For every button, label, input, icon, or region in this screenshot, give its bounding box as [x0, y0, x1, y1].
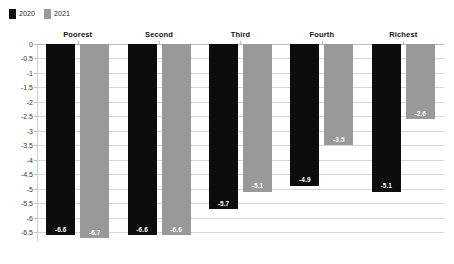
bar-group: Richest-5.1-2.6 [363, 44, 444, 241]
y-axis-tick-label: 0 [29, 41, 33, 48]
group-label: Third [200, 30, 281, 39]
bar[interactable]: -6.6 [46, 44, 75, 235]
legend-label: 2020 [19, 9, 35, 19]
group-label: Fourth [281, 30, 362, 39]
legend-swatch-icon [9, 9, 16, 19]
x-axis-tick-mark [322, 41, 323, 44]
legend-entry[interactable]: 2021 [44, 9, 70, 19]
y-axis-tick-label: -5.5 [21, 200, 33, 207]
bar-chart: 20202021 0-0.5-1-1.5-2-2.5-3-3.5-4-4.5-5… [0, 0, 454, 264]
bar-value-label: -5.7 [209, 201, 238, 208]
bar-value-label: -6.6 [162, 227, 191, 234]
bar[interactable]: -5.1 [372, 44, 401, 192]
x-axis-tick-mark [78, 41, 79, 44]
bar[interactable]: -4.9 [290, 44, 319, 186]
y-axis-tick-label: -0.5 [21, 55, 33, 62]
bar[interactable]: -5.1 [243, 44, 272, 192]
bar[interactable]: -6.7 [80, 44, 109, 238]
group-label: Poorest [37, 30, 118, 39]
bar-value-label: -5.1 [372, 183, 401, 190]
y-axis-tick-label: -2.5 [21, 113, 33, 120]
bar-value-label: -4.9 [290, 177, 319, 184]
bar-value-label: -6.6 [46, 227, 75, 234]
x-axis-tick-mark [403, 41, 404, 44]
bar-group: Second-6.6-6.6 [118, 44, 199, 241]
bar-value-label: -6.7 [80, 230, 109, 237]
x-axis-tick-mark [240, 41, 241, 44]
y-axis-tick-label: -2 [27, 98, 33, 105]
bar-group: Third-5.7-5.1 [200, 44, 281, 241]
bar-value-label: -3.5 [324, 137, 353, 144]
y-axis-tick-label: -3.5 [21, 142, 33, 149]
y-axis-tick-label: -1 [27, 69, 33, 76]
bar-value-label: -5.1 [243, 183, 272, 190]
chart-legend: 20202021 [9, 8, 70, 19]
legend-swatch-icon [44, 9, 51, 19]
y-axis-tick-label: -4 [27, 156, 33, 163]
y-axis-tick-label: -6 [27, 214, 33, 221]
bar[interactable]: -2.6 [406, 44, 435, 119]
y-axis-tick-label: -4.5 [21, 171, 33, 178]
y-axis-tick-label: -1.5 [21, 84, 33, 91]
x-axis-tick-mark [159, 41, 160, 44]
bar-group: Fourth-4.9-3.5 [281, 44, 362, 241]
bar-value-label: -2.6 [406, 111, 435, 118]
group-label: Second [118, 30, 199, 39]
bar[interactable]: -5.7 [209, 44, 238, 209]
group-label: Richest [363, 30, 444, 39]
y-axis-tick-label: -5 [27, 185, 33, 192]
bar[interactable]: -6.6 [128, 44, 157, 235]
legend-entry[interactable]: 2020 [9, 9, 35, 19]
bar[interactable]: -6.6 [162, 44, 191, 235]
bar[interactable]: -3.5 [324, 44, 353, 145]
bar-value-label: -6.6 [128, 227, 157, 234]
plot-area: 0-0.5-1-1.5-2-2.5-3-3.5-4-4.5-5-5.5-6-6.… [37, 44, 444, 241]
bar-group: Poorest-6.6-6.7 [37, 44, 118, 241]
y-axis-tick-label: -3 [27, 127, 33, 134]
y-axis-tick-label: -6.5 [21, 229, 33, 236]
legend-label: 2021 [54, 9, 70, 19]
